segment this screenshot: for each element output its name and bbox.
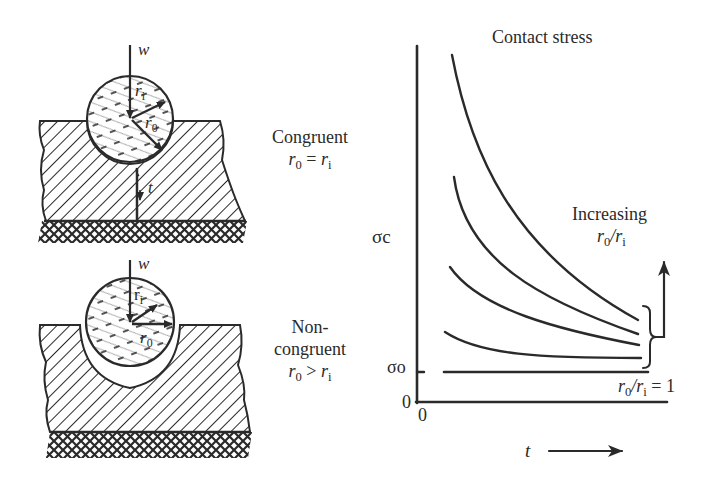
non-congruent-caption-line2: congruent <box>250 339 370 360</box>
curve-small <box>445 332 641 358</box>
top-inner-radius-symbol: r <box>135 81 142 100</box>
eq-op: = <box>302 149 321 169</box>
congruent-diagram <box>38 45 247 243</box>
x-origin-label: 0 <box>418 405 427 426</box>
increasing-arrow <box>656 262 664 337</box>
congruent-equation: r0 = ri <box>250 149 370 173</box>
increasing-ratio-label: r0/ri <box>597 226 626 250</box>
congruent-base <box>38 221 247 243</box>
curve-largest <box>452 55 638 320</box>
thickness-label: t <box>148 178 153 198</box>
chart-title: Contact stress <box>492 27 593 48</box>
y-origin-label: 0 <box>402 392 411 413</box>
baseline-ratio-label: r0/ri = 1 <box>618 376 675 400</box>
eq-rhs-sub: i <box>328 370 332 384</box>
bottom-outer-radius-sub: 0 <box>147 336 153 350</box>
bottom-outer-radius-symbol: r <box>140 328 147 347</box>
bottom-outer-radius-label: r0 <box>140 328 153 351</box>
eq-rhs-sub: i <box>328 158 332 172</box>
non-congruent-base <box>46 432 252 458</box>
top-outer-radius-label: r0 <box>145 113 158 136</box>
bottom-inner-radius-label: ri <box>134 285 143 308</box>
y-axis-label: σc <box>372 226 391 248</box>
bottom-inner-radius-sub: i <box>140 293 143 307</box>
top-inner-radius-label: ri <box>135 81 145 104</box>
eq-lhs: r <box>289 149 296 169</box>
eq-op: > <box>302 361 321 381</box>
top-inner-radius-sub: i <box>142 89 145 103</box>
bottom-load-label: w <box>138 254 149 274</box>
top-load-label: w <box>138 40 149 60</box>
top-outer-radius-symbol: r <box>145 113 152 132</box>
top-outer-radius-sub: 0 <box>152 121 158 135</box>
increasing-label: Increasing <box>572 204 647 225</box>
eq-lhs: r <box>289 361 296 381</box>
congruent-caption: Congruent <box>250 127 370 148</box>
eq-rhs: r <box>321 361 328 381</box>
sigma-o-label: σo <box>387 357 406 378</box>
curve-large <box>454 177 638 334</box>
non-congruent-equation: r0 > ri <box>250 361 370 385</box>
eq-rhs: r <box>321 149 328 169</box>
curve-medium <box>450 267 639 345</box>
x-axis-label: t <box>525 440 530 462</box>
non-congruent-diagram <box>40 260 252 458</box>
non-congruent-caption-line1: Non- <box>250 317 370 338</box>
increasing-brace <box>643 306 656 368</box>
